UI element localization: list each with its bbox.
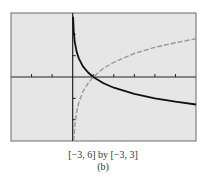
- window-caption: [−3, 6] by [−3, 3]: [0, 149, 206, 160]
- figure-label: (b): [0, 161, 206, 172]
